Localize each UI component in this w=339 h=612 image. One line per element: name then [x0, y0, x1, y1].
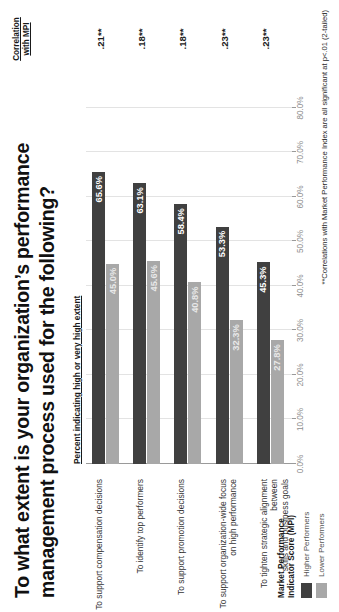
- bar-lower-performers: 45.6%: [147, 261, 160, 464]
- category-label-line: on high performance: [228, 479, 239, 612]
- legend-item[interactable]: Lower Performers: [316, 473, 327, 598]
- gridline: [86, 107, 292, 108]
- axis-tick-label: 80.0%: [296, 96, 305, 119]
- category-label-line: To support organization-wide focus: [218, 479, 229, 612]
- axis-tick-label: 70.0%: [296, 141, 305, 164]
- bar-value-label: 63.1%: [135, 183, 145, 213]
- chart-plot-area: 0.0%10.0%20.0%30.0%40.0%50.0%60.0%70.0%8…: [86, 108, 292, 464]
- category-label-line: To identify top performers: [135, 479, 146, 612]
- category-label-line: To support promotion decisions: [176, 479, 187, 612]
- bar-higher-performers: 45.3%: [257, 262, 270, 464]
- gridline: [86, 196, 292, 197]
- chart-subheader: Percent indicating high or very high ext…: [72, 296, 82, 464]
- bar-lower-performers: 32.3%: [230, 320, 243, 464]
- bar-value-label: 32.3%: [231, 320, 241, 350]
- legend-items: Higher PerformersLower Performers: [301, 473, 327, 598]
- bar-higher-performers: 58.4%: [174, 204, 187, 464]
- category-label: To support promotion decisions: [176, 472, 187, 612]
- correlation-value: .18**: [177, 8, 188, 70]
- correlation-column-header: Correlation with MPI: [12, 8, 33, 70]
- correlation-header-line2: with MPI: [22, 8, 32, 70]
- legend-label: Higher Performers: [302, 512, 311, 577]
- bar-value-label: 58.4%: [176, 204, 186, 234]
- page-title: To what extent is your organization’s pe…: [10, 38, 59, 598]
- category-label: To identify top performers: [135, 472, 146, 612]
- bar-higher-performers: 53.3%: [216, 227, 229, 464]
- legend-item[interactable]: Higher Performers: [301, 473, 312, 598]
- bar-value-label: 45.6%: [149, 261, 159, 291]
- bar-value-label: 65.6%: [94, 172, 104, 202]
- axis-tick-label: 40.0%: [296, 274, 305, 297]
- gridline: [86, 241, 292, 242]
- axis-tick-label: 50.0%: [296, 230, 305, 253]
- slide-canvas: To what extent is your organization’s pe…: [0, 0, 339, 612]
- bar-value-label: 53.3%: [217, 227, 227, 257]
- bar-value-label: 40.8%: [190, 282, 200, 312]
- correlation-value: .23**: [260, 8, 271, 70]
- legend-label: Lower Performers: [317, 513, 326, 577]
- axis-tick-label: 30.0%: [296, 319, 305, 342]
- legend-title-line2: Indicator Score (MPI): [286, 473, 296, 598]
- chart-footnote: **Correlations with Market Performance I…: [320, 10, 329, 285]
- bar-higher-performers: 63.1%: [133, 183, 146, 464]
- bar-lower-performers: 27.8%: [271, 340, 284, 464]
- correlation-value: .21**: [95, 8, 106, 70]
- axis-tick-label: 60.0%: [296, 185, 305, 208]
- legend-title: Market Performance Indicator Score (MPI): [276, 473, 296, 598]
- legend-swatch: [316, 583, 327, 598]
- axis-tick-label: 10.0%: [296, 408, 305, 431]
- correlation-value: .18**: [136, 8, 147, 70]
- gridline: [86, 152, 292, 153]
- category-label-line: To support compensation decisions: [94, 479, 105, 612]
- chart-legend: Market Performance Indicator Score (MPI)…: [276, 473, 327, 598]
- bar-higher-performers: 65.6%: [92, 172, 105, 464]
- bar-value-label: 45.0%: [108, 264, 118, 294]
- bar-lower-performers: 45.0%: [106, 264, 119, 464]
- correlation-value: .23**: [219, 8, 230, 70]
- legend-title-line1: Market Performance: [276, 473, 286, 598]
- bar-lower-performers: 40.8%: [188, 282, 201, 464]
- axis-tick-label: 0.0%: [296, 455, 305, 474]
- correlation-header-line1: Correlation: [12, 8, 22, 70]
- bar-value-label: 45.3%: [258, 262, 268, 292]
- category-label: To support organization-wide focuson hig…: [218, 472, 239, 612]
- category-label: To support compensation decisions: [94, 472, 105, 612]
- axis-tick-label: 20.0%: [296, 363, 305, 386]
- legend-swatch: [301, 583, 312, 598]
- bar-value-label: 27.8%: [272, 340, 282, 370]
